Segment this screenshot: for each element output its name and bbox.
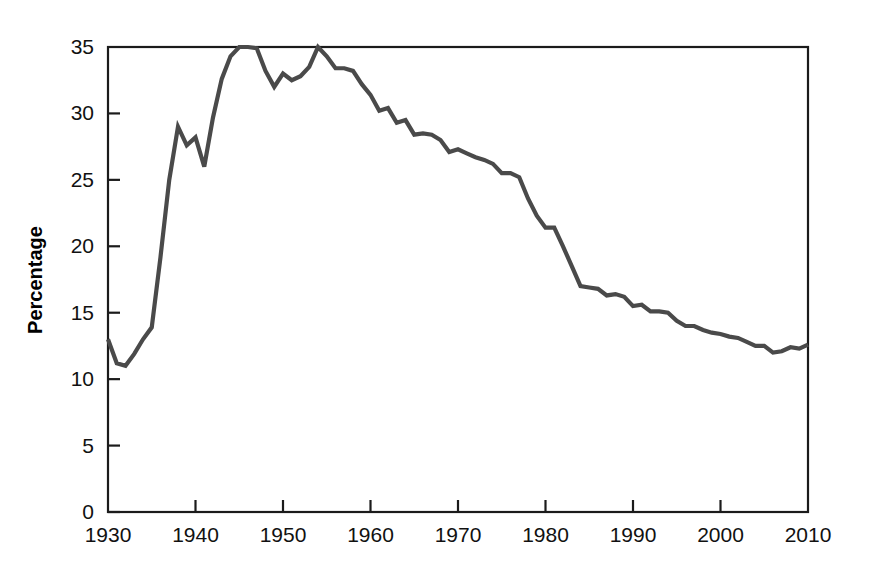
y-tick-label: 25: [71, 168, 94, 191]
chart-background: [0, 0, 872, 582]
x-tick-label: 1990: [610, 523, 657, 546]
y-tick-label: 20: [71, 234, 94, 257]
x-tick-label: 1940: [172, 523, 219, 546]
x-tick-label: 1980: [522, 523, 569, 546]
y-tick-label: 0: [82, 500, 94, 523]
y-axis-title: Percentage: [24, 226, 46, 334]
y-tick-label: 5: [82, 434, 94, 457]
y-tick-label: 30: [71, 101, 94, 124]
x-tick-label: 1970: [435, 523, 482, 546]
x-axis-tick-labels: 193019401950196019701980199020002010: [85, 523, 832, 546]
line-chart: 05101520253035 1930194019501960197019801…: [0, 0, 872, 582]
x-tick-label: 2000: [697, 523, 744, 546]
x-tick-label: 1960: [347, 523, 394, 546]
y-tick-label: 10: [71, 367, 94, 390]
x-tick-label: 1930: [85, 523, 132, 546]
y-tick-label: 35: [71, 35, 94, 58]
y-tick-label: 15: [71, 301, 94, 324]
x-tick-label: 2010: [785, 523, 832, 546]
x-tick-label: 1950: [260, 523, 307, 546]
chart-figure: 05101520253035 1930194019501960197019801…: [0, 0, 872, 582]
